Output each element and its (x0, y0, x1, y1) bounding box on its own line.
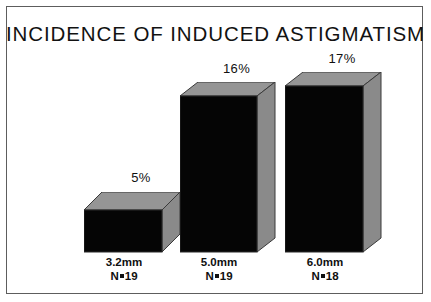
bar-value-label-2: 17% (303, 51, 381, 66)
bar-sample-value-1: 19 (220, 270, 233, 282)
bar-sample-size-1: N19 (159, 270, 279, 284)
bar-3d-shape-2[interactable] (285, 72, 385, 256)
chart-figure: INCIDENCE OF INDUCED ASTIGMATISM 5% 3.2m… (0, 0, 431, 302)
bar-sample-prefix-0: N (110, 270, 118, 282)
bar-category-label-2: 6.0mm N18 (265, 256, 385, 283)
bar-sample-prefix-2: N (311, 270, 319, 282)
bar-sample-size-2: N18 (265, 270, 385, 284)
bar-front-face-2 (285, 86, 363, 252)
bar-3d-shape-0[interactable] (84, 192, 184, 256)
equals-square-icon (321, 274, 325, 278)
plot-area: 5% 3.2mm N19 16% 5.0mm N19 1 (0, 0, 431, 302)
bar-3d-shape-1[interactable] (180, 82, 280, 256)
bar-group-0: 5% (84, 192, 184, 256)
bar-value-label-0: 5% (102, 170, 180, 185)
bar-sample-prefix-1: N (205, 270, 213, 282)
bar-side-face-1 (257, 82, 275, 252)
bar-side-face-2 (363, 72, 381, 252)
bar-category-label-1: 5.0mm N19 (159, 256, 279, 283)
bar-sample-value-2: 18 (326, 270, 339, 282)
bar-group-2: 17% (285, 72, 385, 256)
bar-value-label-1: 16% (198, 61, 275, 76)
equals-square-icon (215, 274, 219, 278)
equals-square-icon (120, 274, 124, 278)
bar-front-face-1 (180, 96, 257, 252)
bar-front-face-0 (84, 210, 162, 252)
bar-sample-value-0: 19 (125, 270, 138, 282)
bar-category-text-1: 5.0mm (201, 256, 237, 268)
bar-category-text-2: 6.0mm (307, 256, 343, 268)
bar-category-text-0: 3.2mm (106, 256, 142, 268)
bar-group-1: 16% (180, 82, 280, 256)
